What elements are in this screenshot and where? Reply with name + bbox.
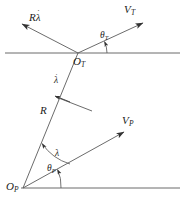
target-velocity-vector [78,23,143,53]
los-rate-tick-line [56,97,92,111]
los-rate-velocity-vector [22,24,78,53]
pursuer-velocity-vector [23,132,124,188]
theta-pursuer-angle-arc [58,170,62,189]
label-los-rate-lambda: λ˙ [36,12,41,23]
geometry-diagram-canvas [0,0,184,212]
label-pursuer-origin-subscript: P [14,185,19,194]
label-range: R [40,105,47,116]
theta-target-angle-arc [105,42,108,54]
label-los-rate-dot-accent: ˙ [37,9,40,18]
label-los-rate-perpendicular: λ˙ [54,76,58,86]
label-los-rate-velocity: Rλ˙ [29,12,41,23]
label-pursuer-velocity-subscript: P [129,119,134,128]
label-pursuer-origin: OP [6,181,19,194]
label-theta-pursuer: θP [47,164,56,174]
los-rate-perpendicular-arrow [55,96,70,102]
figure-diagram-root: VT Rλ˙ θT OT λ˙ R VP λ θP OP [0,0,184,212]
label-target-origin-subscript: T [81,60,85,69]
label-target-velocity-subscript: T [131,8,135,17]
label-theta-pursuer-subscript: P [52,167,56,174]
label-los-rate-perp-lambda: λ˙ [54,76,58,86]
label-theta-target: θT [100,31,108,41]
label-theta-target-subscript: T [105,34,109,41]
label-target-origin: OT [73,56,85,69]
label-los-rate-perp-dot-accent: ˙ [55,74,58,82]
label-pursuer-velocity: VP [122,115,133,128]
label-target-velocity: VT [124,4,135,17]
label-lambda-pursuer: λ [55,149,59,159]
